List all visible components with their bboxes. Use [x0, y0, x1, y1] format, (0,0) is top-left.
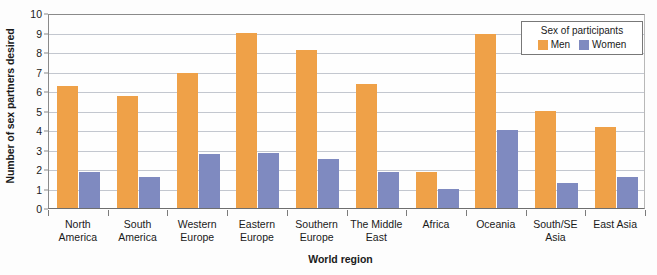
x-tick-mark — [48, 210, 49, 216]
bar-women-0 — [79, 172, 100, 208]
x-tick-mark — [108, 210, 109, 216]
legend-title: Sex of participants — [527, 25, 637, 36]
y-axis-title-text: Number of sex partners desired — [4, 28, 16, 183]
legend-swatch-women — [579, 40, 589, 50]
y-tick-label: 10 — [22, 9, 42, 20]
y-tick-mark — [44, 14, 48, 15]
bar-women-2 — [199, 154, 220, 208]
legend-label: Men — [551, 39, 570, 50]
y-tick-label: 2 — [22, 165, 42, 176]
bar-women-1 — [139, 177, 160, 208]
y-tick-label: 3 — [22, 145, 42, 156]
x-tick-mark — [585, 210, 586, 216]
legend-entries: MenWomen — [527, 39, 637, 50]
x-tick-mark — [645, 210, 646, 216]
bar-men-4 — [296, 50, 317, 208]
x-tick-mark — [406, 210, 407, 216]
x-tick-mark — [167, 210, 168, 216]
y-tick-label: 8 — [22, 48, 42, 59]
bar-women-7 — [497, 130, 518, 208]
y-tick-label: 6 — [22, 87, 42, 98]
bar-chart: Number of sex partners desired 109876543… — [0, 0, 657, 275]
y-tick-mark — [44, 33, 48, 34]
x-tick-mark — [466, 210, 467, 216]
x-tick-label-line: East Asia — [579, 218, 651, 231]
bar-women-9 — [617, 177, 638, 208]
x-tick-label-line: Asia — [520, 231, 592, 244]
legend-swatch-men — [538, 40, 548, 50]
bar-men-0 — [57, 86, 78, 208]
y-tick-mark — [44, 72, 48, 73]
legend-label: Women — [592, 39, 626, 50]
bar-women-5 — [378, 172, 399, 208]
x-axis-title-text: World region — [308, 253, 373, 265]
x-tick-mark — [347, 210, 348, 216]
x-tick-label: East Asia — [579, 218, 651, 231]
y-tick-mark — [44, 150, 48, 151]
bar-men-3 — [236, 33, 257, 208]
y-tick-label: 0 — [22, 204, 42, 215]
x-tick-mark — [287, 210, 288, 216]
bar-men-1 — [117, 96, 138, 208]
y-tick-label: 5 — [22, 106, 42, 117]
bar-women-3 — [258, 153, 279, 208]
y-tick-label: 4 — [22, 126, 42, 137]
x-tick-label-line: East — [341, 231, 413, 244]
x-axis-title: World region — [0, 253, 657, 265]
legend: Sex of participants MenWomen — [521, 21, 643, 55]
y-axis-title: Number of sex partners desired — [0, 0, 20, 212]
x-tick-mark — [526, 210, 527, 216]
bar-women-4 — [318, 159, 339, 208]
y-tick-mark — [44, 92, 48, 93]
bar-women-6 — [438, 189, 459, 208]
bar-men-5 — [356, 84, 377, 208]
y-tick-mark — [44, 53, 48, 54]
y-tick-mark — [44, 131, 48, 132]
x-tick-mark — [227, 210, 228, 216]
y-tick-mark — [44, 111, 48, 112]
bar-men-7 — [475, 34, 496, 208]
bar-men-6 — [416, 172, 437, 208]
legend-entry-men: Men — [538, 39, 570, 50]
bar-women-8 — [557, 183, 578, 208]
y-tick-label: 7 — [22, 67, 42, 78]
legend-entry-women: Women — [579, 39, 626, 50]
y-tick-label: 9 — [22, 28, 42, 39]
y-axis-ticks: 109876543210 — [22, 0, 46, 220]
y-tick-mark — [44, 189, 48, 190]
y-tick-mark — [44, 170, 48, 171]
y-tick-label: 1 — [22, 184, 42, 195]
y-tick-mark — [44, 209, 48, 210]
bar-men-9 — [595, 127, 616, 208]
bar-men-8 — [535, 111, 556, 209]
bar-men-2 — [177, 73, 198, 208]
